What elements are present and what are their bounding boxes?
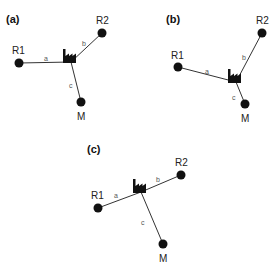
node-label: R1 <box>12 45 25 56</box>
node-r1-dot <box>15 59 24 68</box>
node-label: R2 <box>175 157 188 168</box>
panel-label: (a) <box>6 13 20 25</box>
edge-c <box>71 62 81 102</box>
edge-b <box>141 175 181 192</box>
node-r1-dot <box>94 204 103 213</box>
node-label: M <box>241 113 249 124</box>
panel-label: (b) <box>166 13 180 25</box>
edge-label: a <box>114 192 118 199</box>
edge-label: a <box>44 55 48 62</box>
node-m-dot <box>241 100 250 109</box>
edge-label: b <box>82 40 86 47</box>
factory-icon <box>133 179 146 193</box>
factory-icon <box>63 49 76 63</box>
factory-icon <box>228 69 241 83</box>
edge-c <box>141 192 163 244</box>
node-label: R1 <box>91 190 104 201</box>
node-label: M <box>77 111 85 122</box>
edge-label: c <box>232 94 236 101</box>
node-m-dot <box>159 240 168 249</box>
edge-label: b <box>242 54 246 61</box>
edge-label: c <box>69 82 73 89</box>
node-label: R1 <box>171 50 184 61</box>
edge-label: c <box>141 219 145 226</box>
node-r1-dot <box>174 63 183 72</box>
location-diagram: (a)abcR1R2M(b)abcR1R2M(c)abcR1R2M <box>0 0 278 266</box>
panel-label: (c) <box>87 143 101 155</box>
node-r2-dot <box>98 29 107 38</box>
node-r2-dot <box>258 29 267 38</box>
node-m-dot <box>77 98 86 107</box>
edge-label: b <box>156 176 160 183</box>
panel-a: (a)abcR1R2M <box>6 13 109 122</box>
node-label: M <box>159 253 167 264</box>
edge-a <box>98 192 141 208</box>
edge-label: a <box>205 68 209 75</box>
node-label: R2 <box>96 15 109 26</box>
node-r2-dot <box>177 171 186 180</box>
node-label: R2 <box>256 15 269 26</box>
panel-b: (b)abcR1R2M <box>166 13 269 124</box>
panel-c: (c)abcR1R2M <box>87 143 188 264</box>
